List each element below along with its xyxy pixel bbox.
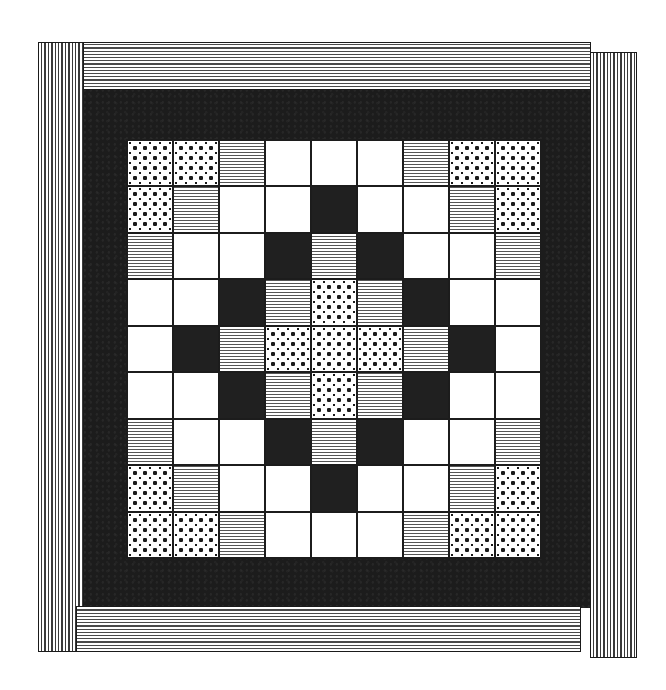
white-square bbox=[357, 465, 403, 511]
white-square bbox=[173, 372, 219, 418]
white-square bbox=[173, 233, 219, 279]
patch-grid bbox=[126, 139, 542, 559]
black-square bbox=[173, 326, 219, 372]
white-square bbox=[219, 465, 265, 511]
white-square bbox=[403, 465, 449, 511]
white-square bbox=[127, 372, 173, 418]
white-square bbox=[265, 140, 311, 186]
white-square bbox=[219, 233, 265, 279]
dotted-square bbox=[173, 140, 219, 186]
dotted-square bbox=[495, 512, 541, 558]
black-square bbox=[219, 279, 265, 325]
white-square bbox=[127, 279, 173, 325]
white-square bbox=[265, 512, 311, 558]
black-square bbox=[357, 419, 403, 465]
dotted-square bbox=[449, 140, 495, 186]
top-border-strip bbox=[83, 42, 591, 90]
dotted-square bbox=[265, 326, 311, 372]
black-square bbox=[265, 419, 311, 465]
striped-square bbox=[403, 512, 449, 558]
white-square bbox=[449, 372, 495, 418]
white-square bbox=[173, 279, 219, 325]
striped-square bbox=[219, 512, 265, 558]
striped-square bbox=[495, 419, 541, 465]
white-square bbox=[403, 419, 449, 465]
striped-square bbox=[265, 372, 311, 418]
white-square bbox=[403, 233, 449, 279]
dotted-square bbox=[127, 186, 173, 232]
striped-square bbox=[173, 186, 219, 232]
white-square bbox=[449, 279, 495, 325]
left-border-strip bbox=[38, 42, 84, 652]
dotted-square bbox=[127, 465, 173, 511]
striped-square bbox=[449, 186, 495, 232]
white-square bbox=[495, 326, 541, 372]
quilt-diagram bbox=[0, 0, 666, 690]
black-square bbox=[403, 372, 449, 418]
dotted-square bbox=[127, 140, 173, 186]
striped-square bbox=[403, 140, 449, 186]
white-square bbox=[127, 326, 173, 372]
white-square bbox=[357, 186, 403, 232]
dotted-square bbox=[449, 512, 495, 558]
dotted-square bbox=[311, 326, 357, 372]
white-square bbox=[173, 419, 219, 465]
dotted-square bbox=[495, 186, 541, 232]
black-square bbox=[449, 326, 495, 372]
white-square bbox=[449, 233, 495, 279]
white-square bbox=[449, 419, 495, 465]
dotted-square bbox=[173, 512, 219, 558]
black-square bbox=[311, 465, 357, 511]
white-square bbox=[403, 186, 449, 232]
striped-square bbox=[219, 326, 265, 372]
white-square bbox=[311, 140, 357, 186]
white-square bbox=[495, 279, 541, 325]
right-border-strip bbox=[590, 52, 637, 658]
white-square bbox=[357, 512, 403, 558]
striped-square bbox=[403, 326, 449, 372]
white-square bbox=[311, 512, 357, 558]
black-square bbox=[219, 372, 265, 418]
white-square bbox=[357, 140, 403, 186]
white-square bbox=[265, 465, 311, 511]
black-square bbox=[357, 233, 403, 279]
white-square bbox=[495, 372, 541, 418]
black-square bbox=[403, 279, 449, 325]
black-square bbox=[265, 233, 311, 279]
bottom-border-strip bbox=[76, 606, 581, 652]
striped-square bbox=[173, 465, 219, 511]
striped-square bbox=[357, 279, 403, 325]
striped-square bbox=[357, 372, 403, 418]
dotted-square bbox=[495, 465, 541, 511]
striped-square bbox=[127, 419, 173, 465]
dotted-square bbox=[311, 279, 357, 325]
dotted-square bbox=[495, 140, 541, 186]
striped-square bbox=[449, 465, 495, 511]
black-square bbox=[311, 186, 357, 232]
dotted-square bbox=[127, 512, 173, 558]
white-square bbox=[265, 186, 311, 232]
striped-square bbox=[265, 279, 311, 325]
dotted-square bbox=[311, 372, 357, 418]
striped-square bbox=[219, 140, 265, 186]
striped-square bbox=[127, 233, 173, 279]
striped-square bbox=[495, 233, 541, 279]
white-square bbox=[219, 419, 265, 465]
striped-square bbox=[311, 419, 357, 465]
striped-square bbox=[311, 233, 357, 279]
white-square bbox=[219, 186, 265, 232]
dotted-square bbox=[357, 326, 403, 372]
